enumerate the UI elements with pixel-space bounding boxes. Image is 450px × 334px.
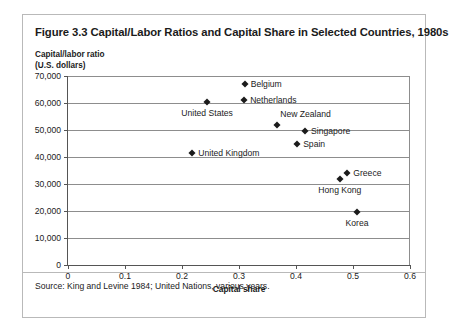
scatter-plot-area: 010,00020,00030,00040,00050,00060,00070,… (67, 76, 410, 266)
x-tick-mark (296, 265, 297, 269)
x-tick-mark (239, 265, 240, 269)
y-tick-mark (64, 211, 68, 212)
y-tick-mark (64, 76, 68, 77)
gridline (68, 103, 410, 104)
data-point-marker (336, 175, 343, 182)
x-tick-mark (410, 265, 411, 269)
y-axis-title: Capital/labor ratio(U.S. dollars) (35, 50, 105, 71)
data-point-marker (204, 98, 211, 105)
data-point-label: New Zealand (280, 109, 331, 119)
y-tick-mark (64, 157, 68, 158)
y-tick-label: 10,000 (35, 233, 61, 243)
y-axis-title-line1: Capital/labor ratio (35, 50, 105, 59)
y-axis-title-line2: (U.S. dollars) (35, 61, 86, 70)
y-tick-label: 70,000 (35, 71, 61, 81)
data-point-label: Netherlands (250, 95, 296, 105)
data-point-marker (189, 149, 196, 156)
data-point-label: United Kingdom (198, 148, 259, 158)
y-tick-label: 50,000 (35, 125, 61, 135)
data-point-label: Korea (346, 218, 369, 228)
figure-title: Figure 3.3 Capital/Labor Ratios and Capi… (35, 26, 417, 38)
data-point-label: Belgium (251, 79, 282, 89)
gridline (68, 76, 410, 77)
y-tick-mark (64, 184, 68, 185)
source-divider (23, 272, 425, 273)
data-point-marker (294, 140, 301, 147)
data-point-label: Greece (353, 168, 381, 178)
y-tick-mark (64, 130, 68, 131)
y-tick-mark (64, 238, 68, 239)
data-point-label: Singapore (311, 126, 350, 136)
data-point-marker (302, 128, 309, 135)
data-point-marker (274, 121, 281, 128)
data-point-label: Hong Kong (318, 185, 361, 195)
gridline (68, 238, 410, 239)
data-point-label: Spain (303, 139, 325, 149)
x-tick-mark (182, 265, 183, 269)
data-point-marker (353, 209, 360, 216)
data-point-label: United States (181, 108, 233, 118)
data-point-marker (241, 81, 248, 88)
y-tick-label: 60,000 (35, 98, 61, 108)
x-tick-mark (125, 265, 126, 269)
y-tick-label: 0 (56, 260, 61, 270)
source-note: Source: King and Levine 1984; United Nat… (35, 281, 270, 291)
x-tick-mark (353, 265, 354, 269)
y-tick-label: 40,000 (35, 152, 61, 162)
figure-card: Figure 3.3 Capital/Labor Ratios and Capi… (22, 14, 426, 318)
gridline (68, 130, 410, 131)
plot-frame-right (409, 76, 410, 265)
x-tick-mark (68, 265, 69, 269)
y-tick-label: 30,000 (35, 179, 61, 189)
data-point-marker (344, 170, 351, 177)
y-tick-mark (64, 103, 68, 104)
y-tick-label: 20,000 (35, 206, 61, 216)
